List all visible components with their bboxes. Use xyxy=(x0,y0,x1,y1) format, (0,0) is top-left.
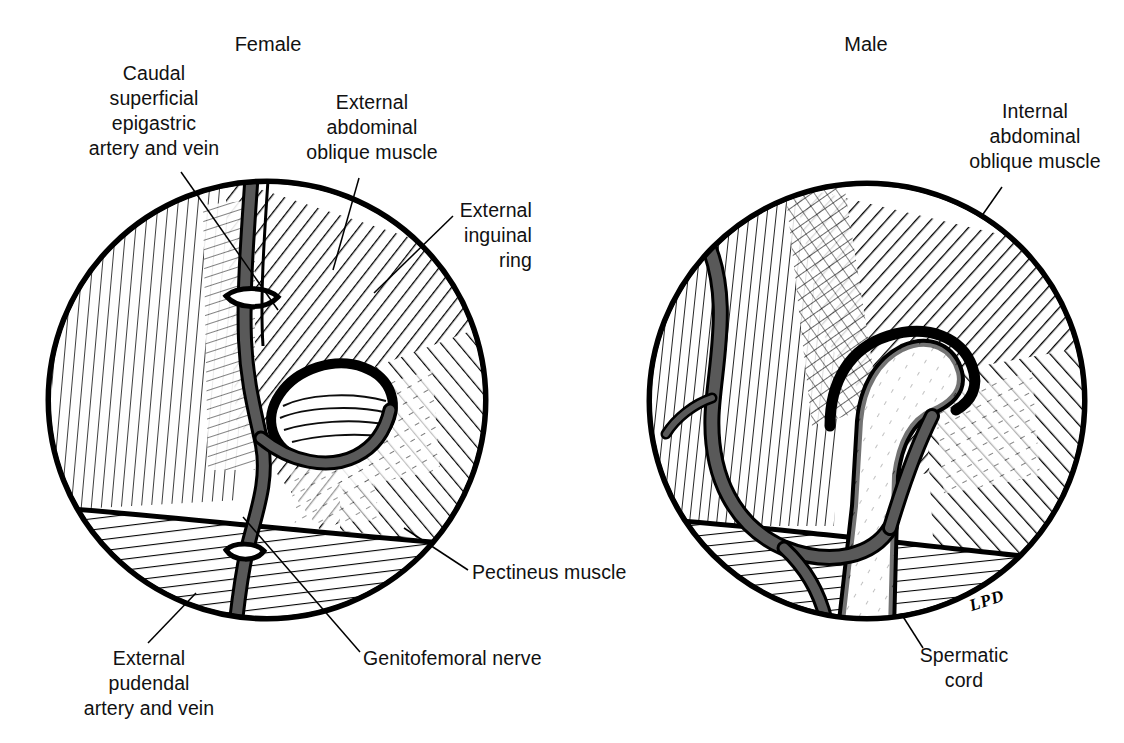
label-caudal-superficial-epigastric: Caudal superficial epigastric artery and… xyxy=(63,61,245,161)
label-genitofemoral-nerve: Genitofemoral nerve xyxy=(363,646,593,671)
label-external-inguinal-ring: External inguinal ring xyxy=(414,198,532,273)
panel-title-male-text: Male xyxy=(844,33,887,55)
label-internal-abdominal-oblique-muscle: Internal abdominal oblique muscle xyxy=(946,99,1124,174)
male-dissection-field xyxy=(644,176,1092,630)
label-external-abdominal-oblique-muscle: External abdominal oblique muscle xyxy=(282,90,462,165)
panel-title-female: Female xyxy=(198,32,338,56)
anatomy-figure: Female xyxy=(0,0,1124,743)
panel-title-male: Male xyxy=(796,32,936,56)
panel-title-female-text: Female xyxy=(235,33,302,55)
male-illustration xyxy=(644,176,1092,630)
label-pectineus-muscle: Pectineus muscle xyxy=(472,560,672,585)
label-external-pudendal-artery-and-vein: External pudendal artery and vein xyxy=(59,646,239,721)
label-spermatic-cord: Spermatic cord xyxy=(890,643,1038,693)
